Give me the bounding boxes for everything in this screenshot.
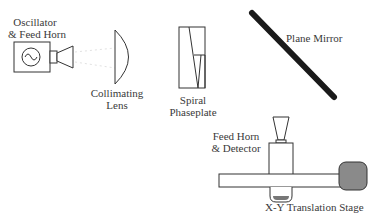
- oscillator-label-line1: Oscillator: [10, 16, 60, 28]
- phaseplate-label-line1: Spiral: [160, 94, 226, 106]
- lens-label-line1: Collimating: [82, 87, 152, 99]
- stage-label: X-Y Translation Stage: [265, 201, 364, 213]
- phaseplate-label-line2: Phaseplate: [160, 106, 226, 118]
- spiral-phaseplate-icon: [179, 27, 205, 88]
- lens-label-line2: Lens: [82, 99, 152, 111]
- detector-label-line1: Feed Horn: [203, 130, 269, 142]
- detector-icon: [269, 143, 293, 176]
- detector-label-line2: & Detector: [203, 142, 269, 154]
- translation-stage-rail: [219, 174, 341, 187]
- oscillator-icon: [14, 42, 50, 72]
- stage-knob-icon: [339, 162, 367, 190]
- plane-mirror-icon: [252, 13, 334, 97]
- mirror-label: Plane Mirror: [286, 32, 343, 44]
- oscillator-label-line2: & Feed Horn: [4, 28, 70, 40]
- collimating-lens-icon: [115, 30, 129, 84]
- beam-path: [75, 48, 115, 68]
- feed-horn-icon: [50, 46, 73, 68]
- detector-feed-horn-icon: [273, 117, 289, 143]
